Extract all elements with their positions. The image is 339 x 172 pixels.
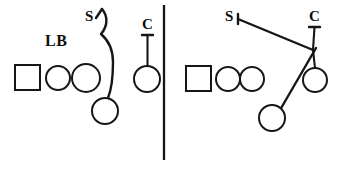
football-coverage-diagram: LB S C S xyxy=(0,0,339,172)
safety-route-curl-left xyxy=(101,9,113,98)
player-square-right-1 xyxy=(186,66,211,91)
label-corner-left: C xyxy=(142,16,153,32)
right-panel: S C xyxy=(186,8,327,131)
label-linebacker-left: LB xyxy=(45,32,67,49)
label-safety-left: S xyxy=(85,8,94,24)
player-circle-left-2 xyxy=(72,64,100,92)
player-circle-left-safety xyxy=(92,98,118,124)
player-circle-right-corner xyxy=(303,68,327,92)
safety-route-diagonal-right xyxy=(238,19,313,50)
label-corner-right: C xyxy=(309,8,320,24)
player-circle-right-flat xyxy=(259,105,285,131)
player-circle-left-corner xyxy=(134,66,160,92)
player-circle-right-1 xyxy=(216,67,240,91)
player-circle-left-1 xyxy=(46,66,70,90)
label-safety-right: S xyxy=(225,8,234,24)
player-square-left-1 xyxy=(15,65,40,90)
corner-route-stem-right xyxy=(313,27,315,50)
diagram-canvas: LB S C S xyxy=(0,0,339,172)
left-panel: LB S C xyxy=(15,8,160,124)
safety-route-arrowhead-left xyxy=(96,9,102,18)
player-circle-right-2 xyxy=(240,67,264,91)
